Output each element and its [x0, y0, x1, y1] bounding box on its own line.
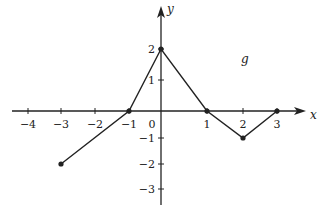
- data-point: [158, 46, 163, 51]
- data-point: [204, 108, 209, 113]
- y-tick-label: −3: [139, 183, 155, 196]
- x-tick-label: 2: [240, 118, 247, 131]
- data-point: [240, 135, 245, 140]
- function-graph: xy−4−3−2−10123−3−2−112g: [0, 0, 320, 212]
- x-tick-label: −1: [121, 118, 137, 131]
- x-tick-label: −3: [53, 118, 69, 131]
- data-point: [274, 108, 279, 113]
- x-tick-label: 3: [274, 118, 281, 131]
- y-tick-label: −1: [139, 132, 155, 145]
- chart-container: xy−4−3−2−10123−3−2−112g: [0, 0, 320, 212]
- x-tick-label: 1: [204, 118, 211, 131]
- x-tick-label: −2: [87, 118, 103, 131]
- x-tick-label: 0: [149, 118, 156, 131]
- graph-line: [61, 49, 277, 164]
- y-tick-label: 2: [148, 43, 155, 56]
- x-tick-label: −4: [20, 118, 36, 131]
- function-label: g: [241, 52, 249, 66]
- y-tick-label: 1: [148, 74, 155, 87]
- data-point: [58, 161, 63, 166]
- y-tick-label: −2: [139, 158, 155, 171]
- data-point: [126, 108, 131, 113]
- y-axis-label: y: [166, 2, 174, 16]
- x-axis-label: x: [310, 108, 317, 122]
